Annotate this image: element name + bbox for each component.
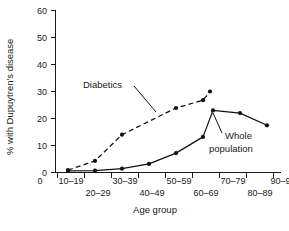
- y-axis-ticks: [51, 11, 56, 173]
- dupuytren-age-chart: 0 10 20 30 40 50 60 % with Dupuytren's d…: [0, 0, 289, 231]
- y-tick-label-10: 10: [37, 141, 47, 151]
- whole-population-point-50-59: [174, 151, 178, 155]
- x-tick-label-origin: 0: [37, 176, 42, 186]
- whole-population-label-line1: Whole: [225, 130, 252, 141]
- whole-population-point-80-89: [238, 111, 242, 115]
- x-axis-tick-labels-top: 0 10–19 30–39 50–59 70–79 90–99: [37, 176, 289, 186]
- x-tick-label-30-39: 30–39: [112, 176, 137, 186]
- whole-population-point-70-79: [211, 108, 215, 112]
- y-tick-label-40: 40: [37, 60, 47, 70]
- whole-population-point-90-99: [265, 123, 269, 127]
- whole-population-point-60-69: [201, 135, 205, 139]
- diabetics-point-50-59: [174, 106, 178, 110]
- y-tick-label-0: 0: [42, 168, 47, 178]
- diabetics-point-20-29: [93, 159, 97, 163]
- diabetics-point-70-79: [208, 89, 212, 93]
- x-tick-label-70-79: 70–79: [220, 176, 245, 186]
- whole-population-point-40-49: [147, 162, 151, 166]
- diabetics-label: Diabetics: [83, 79, 122, 90]
- whole-population-point-20-29: [93, 169, 97, 173]
- y-axis-title: % with Dupuytren's disease: [4, 39, 15, 155]
- x-tick-label-60-69: 60–69: [193, 188, 218, 198]
- series-diabetics: [66, 89, 212, 172]
- diabetics-annotation: Diabetics: [83, 79, 156, 112]
- y-tick-label-30: 30: [37, 87, 47, 97]
- x-tick-label-90-99: 90–99: [270, 176, 289, 186]
- whole-population-leader-line: [213, 113, 222, 133]
- x-tick-label-20-29: 20–29: [85, 188, 110, 198]
- y-tick-label-50: 50: [37, 33, 47, 43]
- y-tick-label-60: 60: [37, 6, 47, 16]
- diabetics-point-60-69: [201, 98, 205, 102]
- chart-canvas: 0 10 20 30 40 50 60 % with Dupuytren's d…: [0, 0, 289, 231]
- x-tick-label-10-19: 10–19: [58, 176, 83, 186]
- whole-population-label-line2: population: [209, 143, 253, 154]
- x-axis-title: Age group: [133, 204, 177, 215]
- x-axis-tick-labels-bottom: 20–29 40–49 60–69 80–89: [85, 188, 272, 198]
- x-tick-label-50-59: 50–59: [166, 176, 191, 186]
- x-tick-label-40-49: 40–49: [139, 188, 164, 198]
- diabetics-line: [68, 92, 210, 171]
- x-tick-label-80-89: 80–89: [247, 188, 272, 198]
- whole-population-point-10-19: [66, 169, 70, 173]
- diabetics-point-30-39: [120, 133, 124, 137]
- whole-population-annotation: Whole population: [209, 113, 253, 154]
- y-tick-label-20: 20: [37, 114, 47, 124]
- y-axis-tick-labels: 0 10 20 30 40 50 60: [37, 6, 47, 178]
- whole-population-point-30-39: [120, 167, 124, 171]
- diabetics-leader-line: [134, 86, 156, 112]
